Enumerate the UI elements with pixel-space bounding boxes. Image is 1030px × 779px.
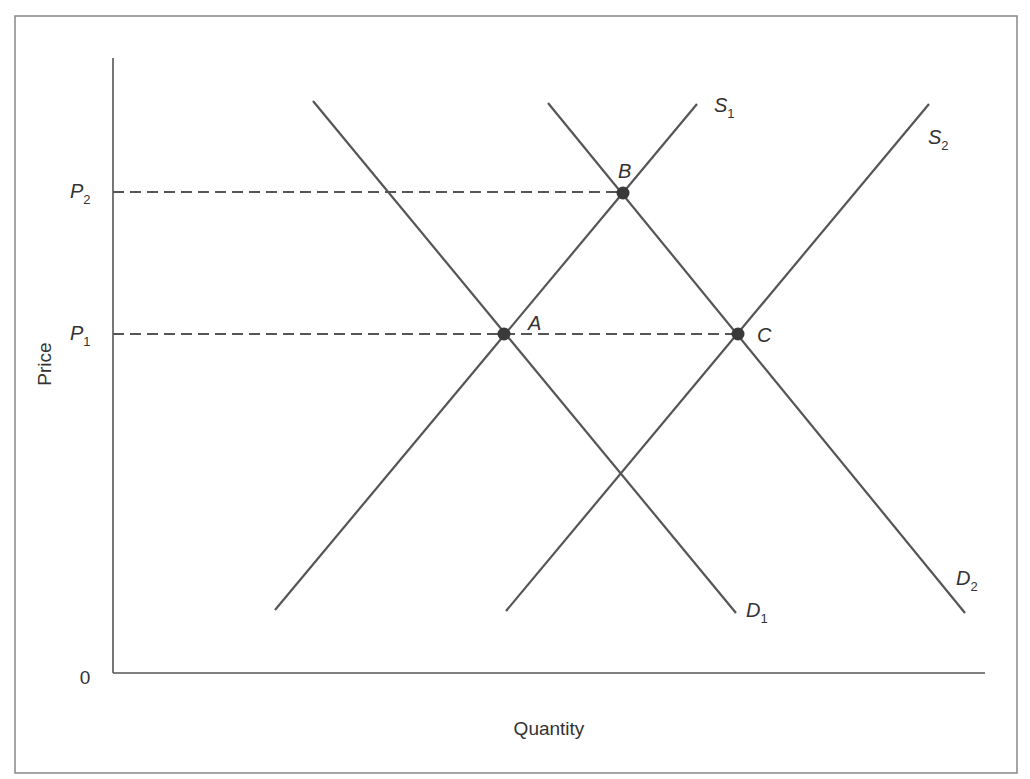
point-label-b: B (618, 160, 631, 182)
price-guides: P2P1 (70, 180, 738, 349)
curve-label-s1: S1 (714, 94, 735, 121)
equilibrium-point-a (498, 328, 511, 341)
y-axis-label: Price (34, 342, 55, 385)
supply-curve-s2 (506, 104, 929, 611)
supply-curve-s1 (275, 104, 697, 610)
point-label-a: A (527, 312, 541, 334)
axes (113, 58, 985, 673)
x-axis-label: Quantity (514, 718, 585, 739)
price-label-p1: P1 (70, 322, 91, 349)
curve-label-d1: D1 (746, 599, 768, 626)
outer-frame (15, 16, 1017, 773)
curve-label-s2: S2 (928, 126, 949, 153)
demand-curve-d1 (313, 101, 736, 613)
equilibrium-point-c (732, 328, 745, 341)
point-label-c: C (757, 324, 772, 346)
price-label-p2: P2 (70, 180, 91, 207)
equilibrium-point-b (617, 187, 630, 200)
origin-label: 0 (80, 667, 91, 688)
equilibrium-points: ABC (498, 160, 773, 346)
supply-demand-diagram: P2P1 S1S2D1D2 ABC Price Quantity 0 (0, 0, 1030, 779)
demand-curve-d2 (548, 103, 965, 613)
curve-label-d2: D2 (956, 567, 978, 594)
